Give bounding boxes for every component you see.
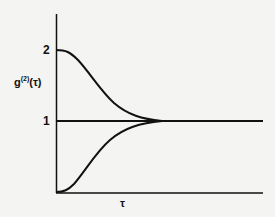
g2-correlation-plot xyxy=(0,0,275,217)
y-axis-label-base: g xyxy=(14,76,21,88)
antibunched-curve xyxy=(56,121,162,192)
ytick-2: 2 xyxy=(43,44,50,56)
x-axis-label: τ xyxy=(120,198,125,209)
y-axis-label: g(2)(τ) xyxy=(14,75,42,88)
y-axis-label-arg: (τ) xyxy=(29,76,41,88)
ytick-1: 1 xyxy=(43,115,50,127)
y-axis-label-sup: (2) xyxy=(21,75,30,82)
bunched-curve xyxy=(56,50,162,121)
